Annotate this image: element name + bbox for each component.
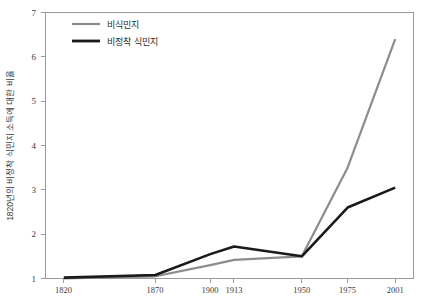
x-tick-label-1870: 1870	[147, 285, 164, 295]
x-tick-label-1900: 1900	[202, 285, 219, 295]
legend: 비식민지 비정착 식민지	[72, 20, 158, 47]
x-tick-label-1950: 1950	[293, 285, 310, 295]
y-axis-ticks	[41, 13, 46, 279]
y-axis-title: 1820년의 비정착 식민지 소득에 대한 비율	[5, 70, 15, 221]
y-tick-label-1: 1	[32, 274, 37, 284]
x-tick-label-2001: 2001	[387, 285, 404, 295]
x-tick-label-1820: 1820	[55, 285, 72, 295]
y-tick-label-5: 5	[32, 96, 37, 106]
y-tick-label-7: 7	[32, 8, 37, 18]
x-tick-label-1913: 1913	[225, 285, 242, 295]
legend-label-noncolony: 비식민지	[107, 20, 139, 30]
x-tick-label-1975: 1975	[339, 285, 356, 295]
y-tick-label-2: 2	[32, 229, 37, 239]
y-tick-label-3: 3	[32, 185, 37, 195]
y-axis-tick-labels: 7 6 5 4 3 2 1	[32, 8, 37, 284]
x-axis-tick-labels: 1820 1870 1900 1913 1950 1975 2001	[55, 285, 404, 295]
series-line-noncolony	[64, 39, 395, 278]
axis-left-bottom	[46, 13, 414, 279]
axis-top-right	[46, 13, 414, 279]
y-tick-label-6: 6	[32, 52, 37, 62]
legend-label-nonsettler-colony: 비정착 식민지	[107, 37, 158, 47]
x-axis-ticks	[63, 279, 395, 284]
line-chart: 7 6 5 4 3 2 1 1820 1870 1900 1913 1950 1…	[0, 0, 426, 302]
y-tick-label-4: 4	[32, 141, 37, 151]
chart-container: 7 6 5 4 3 2 1 1820 1870 1900 1913 1950 1…	[0, 0, 426, 302]
data-series-group	[64, 39, 395, 278]
plot-frame	[46, 13, 414, 279]
series-line-nonsettler-colony	[64, 188, 395, 278]
